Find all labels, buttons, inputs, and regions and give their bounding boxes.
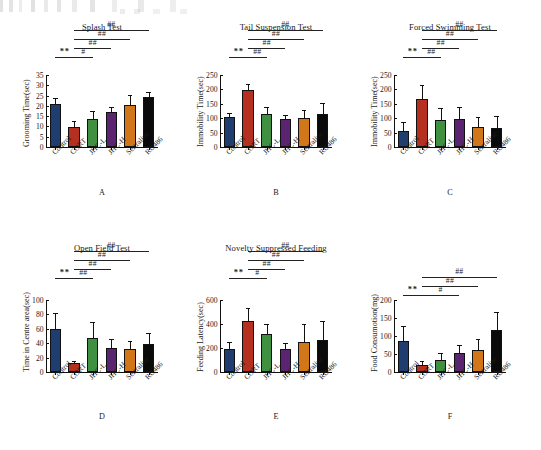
panel-letter-F: F [394, 412, 506, 421]
y-axis-label-F: Food Consumotion(mg) [370, 294, 379, 372]
bar-F-control [398, 300, 409, 372]
error-bar-cap [438, 353, 443, 354]
error-bar-whisker [459, 346, 460, 353]
error-bar-cap [401, 326, 406, 327]
significance-line [422, 295, 459, 296]
error-bar-cap [494, 312, 499, 313]
bar-F-jhc-h [454, 300, 465, 372]
error-bar-cap [476, 339, 481, 340]
significance-line [422, 286, 478, 287]
error-bar-whisker [497, 313, 498, 329]
y-tick-label-F-4: 200 [380, 296, 394, 305]
y-tick-mark-F-0 [394, 372, 397, 373]
y-tick-label-F-3: 150 [380, 314, 394, 323]
plot-area-F: 050100150200Food Consumotion(mg)ControlC… [394, 300, 506, 372]
error-bar-cap [420, 361, 425, 362]
bar-F-jhc-l [435, 300, 446, 372]
panel-F: F050100150200Food Consumotion(mg)Control… [0, 0, 541, 450]
significance-label: ** [403, 285, 422, 294]
figure-multipanel-bar-charts: Splash TestA05101520253035Grooming Time(… [0, 0, 541, 450]
significance-line [403, 295, 422, 296]
error-bar-whisker [441, 354, 442, 360]
y-tick-label-F-2: 100 [380, 332, 394, 341]
error-bar-whisker [403, 327, 404, 340]
error-bar-whisker [478, 340, 479, 350]
bar-F-sertraline [472, 300, 483, 372]
y-tick-label-F-1: 50 [384, 350, 394, 359]
significance-label: ## [422, 268, 497, 276]
bar-F-cort [416, 300, 427, 372]
error-bar-whisker [422, 362, 423, 366]
error-bar-cap [457, 345, 462, 346]
significance-line [422, 277, 497, 278]
